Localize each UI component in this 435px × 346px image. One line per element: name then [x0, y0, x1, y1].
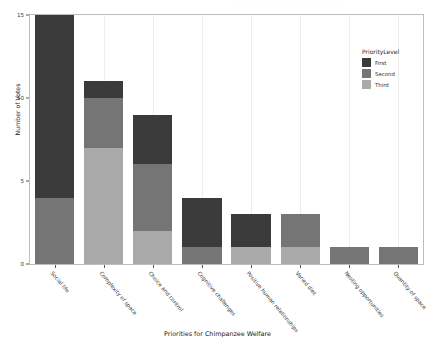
bar-segment[interactable]	[84, 148, 123, 264]
x-tick-mark	[300, 265, 301, 268]
x-tick-label: Choice and control	[147, 270, 184, 313]
y-tick-mark	[26, 15, 29, 16]
bar-segment[interactable]	[133, 164, 172, 230]
legend-label: First	[375, 60, 386, 66]
y-tick-label: 0	[20, 261, 24, 267]
bar-segment[interactable]	[330, 247, 369, 264]
bar-segment[interactable]	[281, 214, 320, 247]
x-tick-label: Positive human relationships	[245, 270, 299, 333]
bar-stack[interactable]	[182, 15, 221, 264]
x-tick-mark	[349, 265, 350, 268]
legend-title: PriorityLevel	[362, 48, 399, 55]
x-tick-mark	[55, 265, 56, 268]
legend: PriorityLevel FirstSecondThird	[362, 48, 399, 91]
legend-swatch-icon	[362, 69, 371, 78]
legend-item[interactable]: Second	[362, 69, 399, 78]
x-tick-label: Quantity of space	[393, 270, 428, 310]
y-tick-mark	[26, 98, 29, 99]
legend-swatch-icon	[362, 80, 371, 89]
legend-entries: FirstSecondThird	[362, 58, 399, 89]
y-tick-mark	[26, 264, 29, 265]
y-tick-label: 5	[20, 178, 24, 184]
x-tick-mark	[202, 265, 203, 268]
legend-label: Third	[375, 82, 389, 88]
bar-segment[interactable]	[182, 247, 221, 264]
bar-segment[interactable]	[379, 247, 418, 264]
y-tick-mark	[26, 181, 29, 182]
bar-stack[interactable]	[231, 15, 270, 264]
y-tick-label: 15	[17, 12, 24, 18]
bar-stack[interactable]	[35, 15, 74, 264]
bar-segment[interactable]	[182, 198, 221, 248]
x-tick-label: Cognitive challenges	[196, 270, 237, 317]
x-tick-label: Social life	[49, 270, 70, 294]
x-tick-label: Complexity of space	[98, 270, 138, 316]
top-edge-artifact: · · ·· · ·· · ·· · · ·· ·· · · ·	[236, 1, 432, 7]
legend-swatch-icon	[362, 58, 371, 67]
bar-segment[interactable]	[231, 247, 270, 264]
x-tick-mark	[398, 265, 399, 268]
x-tick-mark	[153, 265, 154, 268]
bar-stack[interactable]	[133, 15, 172, 264]
bar-stack[interactable]	[281, 15, 320, 264]
chart-container: · · ·· · ·· · ·· · · ·· ·· · · · 051015 …	[0, 0, 435, 346]
bar-segment[interactable]	[281, 247, 320, 264]
legend-label: Second	[375, 71, 395, 77]
bar-segment[interactable]	[133, 115, 172, 165]
x-tick-mark	[104, 265, 105, 268]
x-tick-mark	[251, 265, 252, 268]
x-tick-label: Varied diet	[295, 270, 318, 296]
y-axis-title: Number of Votes	[14, 65, 21, 155]
x-axis-title: Priorities for Chimpanzee Welfare	[0, 330, 435, 338]
legend-item[interactable]: Third	[362, 80, 399, 89]
bar-segment[interactable]	[231, 214, 270, 247]
bar-segment[interactable]	[84, 81, 123, 98]
bar-segment[interactable]	[35, 198, 74, 264]
bar-segment[interactable]	[84, 98, 123, 148]
bar-segment[interactable]	[35, 15, 74, 198]
legend-item[interactable]: First	[362, 58, 399, 67]
x-tick-label: Nesting opportunities	[344, 270, 386, 318]
bar-stack[interactable]	[84, 15, 123, 264]
bar-segment[interactable]	[133, 231, 172, 264]
